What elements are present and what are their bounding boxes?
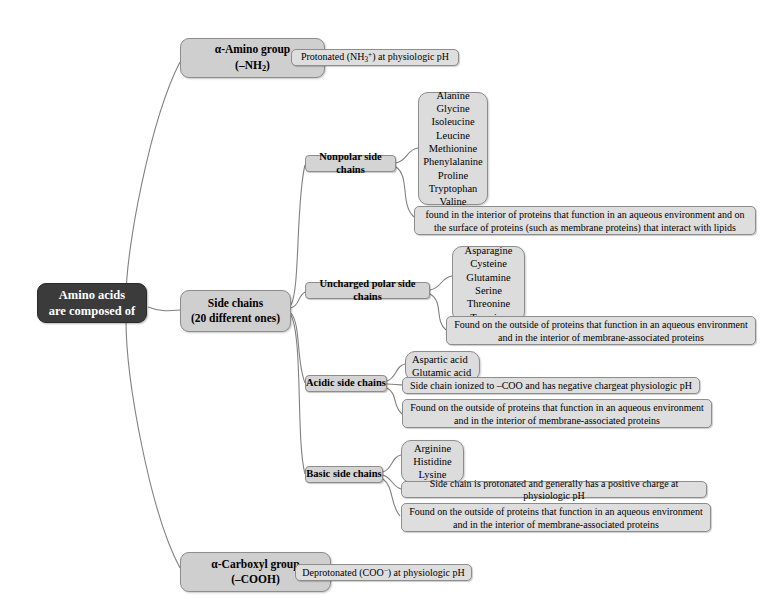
node-category-uncharged-polar[interactable]: Uncharged polar side chains bbox=[305, 282, 430, 299]
list-item: Serine bbox=[475, 284, 502, 297]
note-text: Found on the outside of proteins that fu… bbox=[409, 401, 705, 427]
list-item: Leucine bbox=[436, 129, 470, 142]
node-carboxyl-group-detail[interactable]: Deprotonated (COO−) at physiologic pH bbox=[295, 564, 472, 581]
carboxyl-group-detail-text: Deprotonated (COO−) at physiologic pH bbox=[302, 567, 464, 579]
connector-root-to-side-chains bbox=[148, 307, 180, 311]
alpha-carboxyl-group-line-2: (–COOH) bbox=[231, 572, 280, 587]
list-item: Tryptophan bbox=[429, 182, 478, 195]
list-item: Aspartic acid bbox=[412, 353, 468, 366]
list-item: Glutamine bbox=[466, 271, 510, 284]
list-uncharged-polar-members[interactable]: Asparagine Cysteine Glutamine Serine Thr… bbox=[452, 246, 525, 322]
connector-root-to-carboxyl-group bbox=[126, 320, 180, 568]
note-uncharged-polar-location[interactable]: Found on the outside of proteins that fu… bbox=[446, 316, 756, 345]
root-line-1: Amino acids bbox=[59, 287, 125, 304]
list-item: Histidine bbox=[413, 455, 452, 468]
note-text: Found on the outside of proteins that fu… bbox=[453, 318, 749, 344]
connector-uncharged-to-note bbox=[430, 294, 446, 330]
note-acidic-ionization[interactable]: Side chain ionized to –COO and has negat… bbox=[402, 377, 700, 394]
connector-root-to-amino-group bbox=[126, 62, 180, 297]
connector-acidic-to-note2 bbox=[387, 388, 402, 414]
alpha-carboxyl-group-line-1: α-Carboxyl group bbox=[211, 557, 299, 572]
category-basic-label: Basic side chains bbox=[306, 468, 381, 481]
list-item: Isoleucine bbox=[431, 115, 474, 128]
side-chains-line-1: Side chains bbox=[208, 296, 263, 311]
root-node[interactable]: Amino acids are composed of bbox=[37, 283, 147, 323]
list-item: Cysteine bbox=[470, 257, 507, 270]
category-uncharged-polar-label: Uncharged polar side chains bbox=[306, 278, 429, 303]
list-item: Alanine bbox=[436, 89, 469, 102]
connector-basic-to-note1 bbox=[383, 475, 401, 489]
list-item: Phenylalanine bbox=[423, 155, 482, 168]
node-side-chains[interactable]: Side chains (20 different ones) bbox=[180, 290, 291, 332]
amino-group-detail-text: Protonated (NH3+) at physiologic pH bbox=[301, 51, 449, 65]
connector-basic-to-note2 bbox=[383, 479, 400, 516]
note-text: Found on the outside of proteins that fu… bbox=[408, 505, 704, 531]
root-line-2: are composed of bbox=[49, 303, 136, 320]
note-nonpolar-location[interactable]: found in the interior of proteins that f… bbox=[414, 206, 756, 235]
list-item: Proline bbox=[438, 169, 468, 182]
category-acidic-label: Acidic side chains bbox=[306, 377, 386, 390]
note-basic-location[interactable]: Found on the outside of proteins that fu… bbox=[401, 503, 711, 532]
note-text: found in the interior of proteins that f… bbox=[421, 208, 749, 234]
note-basic-protonation[interactable]: Side chain is protonated and generally h… bbox=[401, 481, 707, 498]
alpha-amino-group-line-2: (–NH2) bbox=[235, 58, 270, 74]
connector-sidechains-to-uncharged bbox=[291, 292, 305, 308]
note-text: Side chain is protonated and generally h… bbox=[408, 478, 700, 502]
connector-uncharged-to-list bbox=[430, 276, 452, 290]
mindmap-canvas: Amino acids are composed of α-Amino grou… bbox=[0, 0, 766, 608]
list-item: Asparagine bbox=[465, 244, 513, 257]
connector-nonpolar-to-list bbox=[396, 148, 418, 163]
note-acidic-location[interactable]: Found on the outside of proteins that fu… bbox=[402, 399, 712, 428]
node-category-acidic[interactable]: Acidic side chains bbox=[305, 375, 387, 392]
note-text: Side chain ionized to –COO and has negat… bbox=[410, 380, 692, 392]
list-item: Methionine bbox=[429, 142, 477, 155]
connector-sidechains-to-basic bbox=[291, 315, 305, 474]
connector-nonpolar-to-note bbox=[396, 167, 414, 217]
connector-sidechains-to-acidic bbox=[291, 313, 305, 383]
list-item: Arginine bbox=[414, 442, 451, 455]
list-item: Threonine bbox=[467, 297, 510, 310]
node-category-basic[interactable]: Basic side chains bbox=[305, 466, 383, 483]
node-amino-group-detail[interactable]: Protonated (NH3+) at physiologic pH bbox=[291, 49, 459, 66]
list-item: Glycine bbox=[436, 102, 469, 115]
side-chains-line-2: (20 different ones) bbox=[191, 311, 280, 326]
connector-sidechains-to-nonpolar bbox=[291, 165, 305, 305]
alpha-amino-group-line-1: α-Amino group bbox=[215, 42, 291, 57]
connector-basic-to-list bbox=[383, 455, 401, 472]
node-category-nonpolar[interactable]: Nonpolar side chains bbox=[305, 155, 396, 172]
list-nonpolar-members[interactable]: Alanine Glycine Isoleucine Leucine Methi… bbox=[418, 92, 488, 205]
category-nonpolar-label: Nonpolar side chains bbox=[306, 151, 395, 176]
